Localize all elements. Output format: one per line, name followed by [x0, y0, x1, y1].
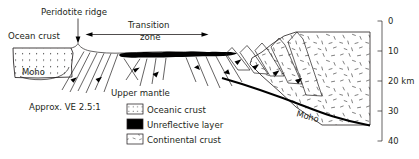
legend-swatch-oceanic-crust [127, 104, 143, 114]
legend-label-unreflective-layer: Unreflective layer [147, 120, 224, 130]
legend-label-continental-crust: Continental crust [147, 135, 222, 145]
ocean-crust-label: Ocean crust [8, 31, 60, 41]
depth-tick-30: 30 [388, 106, 399, 116]
legend-item-continental-crust: Continental crust [127, 134, 222, 145]
legend-swatch-continental-crust [127, 134, 143, 144]
depth-tick-10: 10 [388, 46, 399, 56]
legend-item-unreflective-layer: Unreflective layer [127, 119, 224, 130]
transition-zone-label-line2: zone [140, 32, 161, 42]
moho-left-label: Moho [22, 67, 45, 77]
legend-label-oceanic-crust: Oceanic crust [147, 105, 207, 115]
depth-tick-40: 40 [388, 136, 399, 146]
legend-swatch-unreflective-layer [127, 119, 143, 129]
legend-item-oceanic-crust: Oceanic crust [127, 104, 207, 115]
transition-zone-label-line1: Transition [127, 20, 170, 30]
depth-tick-0: 0 [388, 16, 393, 26]
geologic-cross-section-figure: Peridotite ridge Ocean crust Transition … [0, 0, 419, 159]
upper-mantle-label: Upper mantle [111, 88, 170, 98]
vertical-exaggeration-label: Approx. VE 2.5:1 [29, 102, 101, 112]
depth-tick-20: 20 km [388, 76, 414, 86]
peridotite-ridge-label: Peridotite ridge [41, 7, 107, 17]
